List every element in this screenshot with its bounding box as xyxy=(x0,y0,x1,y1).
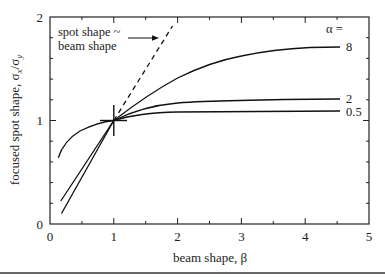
series-spot-equals-beam xyxy=(114,26,173,121)
svg-text:0: 0 xyxy=(47,229,54,244)
y-ticks-left xyxy=(50,38,56,204)
label-alpha-8: 8 xyxy=(346,40,352,54)
x-ticks-bottom xyxy=(82,218,337,224)
chart: 0 1 2 3 4 5 0 1 2 beam shape, β focused … xyxy=(0,0,385,277)
svg-text:2: 2 xyxy=(37,10,44,25)
label-alpha-2: 2 xyxy=(346,92,352,106)
svg-text:1: 1 xyxy=(37,113,44,128)
svg-text:4: 4 xyxy=(302,229,309,244)
svg-text:2: 2 xyxy=(174,229,181,244)
annotation-line-2: beam shape xyxy=(58,39,117,53)
series-alpha-0.5 xyxy=(62,111,341,214)
label-alpha-0.5: 0.5 xyxy=(346,105,362,119)
annotation-arrow xyxy=(128,35,159,41)
legend-title: α = xyxy=(326,22,343,36)
y-axis-title: focused spot shape, σx/σy xyxy=(7,55,24,185)
x-tick-labels: 0 1 2 3 4 5 xyxy=(47,229,373,244)
series-alpha-2 xyxy=(61,99,340,201)
svg-text:0: 0 xyxy=(37,217,44,232)
svg-text:1: 1 xyxy=(111,229,118,244)
svg-text:5: 5 xyxy=(366,229,373,244)
svg-text:3: 3 xyxy=(238,229,245,244)
crosshair-marker xyxy=(100,105,127,136)
x-axis-title: beam shape, β xyxy=(173,250,248,265)
x-ticks-top xyxy=(82,17,337,23)
y-ticks-right xyxy=(363,38,369,204)
y-tick-labels: 0 1 2 xyxy=(37,10,44,232)
annotation-line-1: spot shape ~ xyxy=(58,25,121,39)
